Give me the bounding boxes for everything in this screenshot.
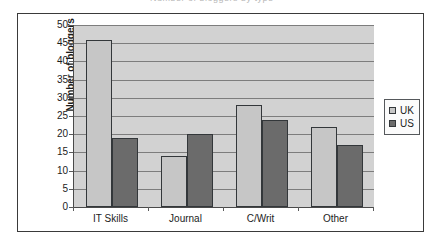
bar-uk-c-writ[interactable] xyxy=(236,105,262,207)
y-axis-tick-label: 20 xyxy=(42,129,68,139)
y-axis-tick-label: 10 xyxy=(42,166,68,176)
x-axis-tick-mark xyxy=(73,207,74,211)
bar-uk-other[interactable] xyxy=(311,127,337,207)
x-axis-tick-label-it-skills: IT Skills xyxy=(73,213,148,224)
bar-us-c-writ[interactable] xyxy=(262,120,288,207)
x-axis-tick-label-journal: Journal xyxy=(148,213,223,224)
bar-us-journal[interactable] xyxy=(187,134,213,207)
bar-group xyxy=(299,25,374,207)
y-axis-tick-label: 5 xyxy=(42,184,68,194)
legend-label: US xyxy=(400,119,414,129)
y-axis-tick-labels: 05101520253035404550 xyxy=(42,25,68,207)
legend-entry-uk[interactable]: UK xyxy=(389,104,414,117)
y-axis-tick-label: 0 xyxy=(42,202,68,212)
legend-label: UK xyxy=(400,106,414,116)
x-axis-tick-mark xyxy=(298,207,299,211)
caption-text: Number of bloggers by type xyxy=(150,0,274,3)
x-axis-tick-marks xyxy=(73,207,374,212)
legend-entry-us[interactable]: US xyxy=(389,117,414,130)
y-axis-tick-label: 25 xyxy=(42,111,68,121)
bar-group xyxy=(74,25,149,207)
x-axis-tick-label-other: Other xyxy=(298,213,373,224)
legend-swatch-icon xyxy=(389,107,396,114)
y-axis-tick-label: 15 xyxy=(42,147,68,157)
x-axis-tick-mark xyxy=(223,207,224,211)
y-axis-tick-label: 30 xyxy=(42,93,68,103)
y-axis-tick-label: 40 xyxy=(42,56,68,66)
bar-us-other[interactable] xyxy=(337,145,363,207)
x-axis-tick-labels: IT SkillsJournalC/WritOther xyxy=(73,213,373,227)
bar-group xyxy=(224,25,299,207)
x-axis-tick-mark xyxy=(148,207,149,211)
bar-uk-it-skills[interactable] xyxy=(86,40,112,207)
x-axis-tick-mark xyxy=(373,207,374,211)
x-axis-tick-label-c-writ: C/Writ xyxy=(223,213,298,224)
legend-swatch-icon xyxy=(389,120,396,127)
y-axis-tick-label: 35 xyxy=(42,75,68,85)
y-axis-tick-label: 50 xyxy=(42,20,68,30)
bar-uk-journal[interactable] xyxy=(161,156,187,207)
plot-area xyxy=(73,25,374,208)
chart-figure-frame: Number of bloggers 05101520253035404550 … xyxy=(17,13,424,232)
y-axis-tick-label: 45 xyxy=(42,38,68,48)
bar-us-it-skills[interactable] xyxy=(112,138,138,207)
bar-group xyxy=(149,25,224,207)
chart-legend: UKUS xyxy=(384,99,420,135)
bars-layer xyxy=(74,25,374,207)
